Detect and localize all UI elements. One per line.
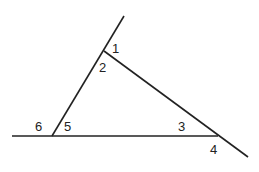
angle-label-6: 6 <box>35 120 42 133</box>
angle-label-2: 2 <box>99 61 106 74</box>
left-transversal-line <box>52 16 124 136</box>
triangle-diagram: 1 2 3 4 5 6 <box>0 0 259 172</box>
angle-label-4: 4 <box>210 143 217 156</box>
diagram-lines <box>0 0 259 172</box>
angle-label-5: 5 <box>64 120 71 133</box>
angle-label-3: 3 <box>178 120 185 133</box>
right-transversal-line <box>104 51 248 157</box>
angle-label-1: 1 <box>112 42 119 55</box>
